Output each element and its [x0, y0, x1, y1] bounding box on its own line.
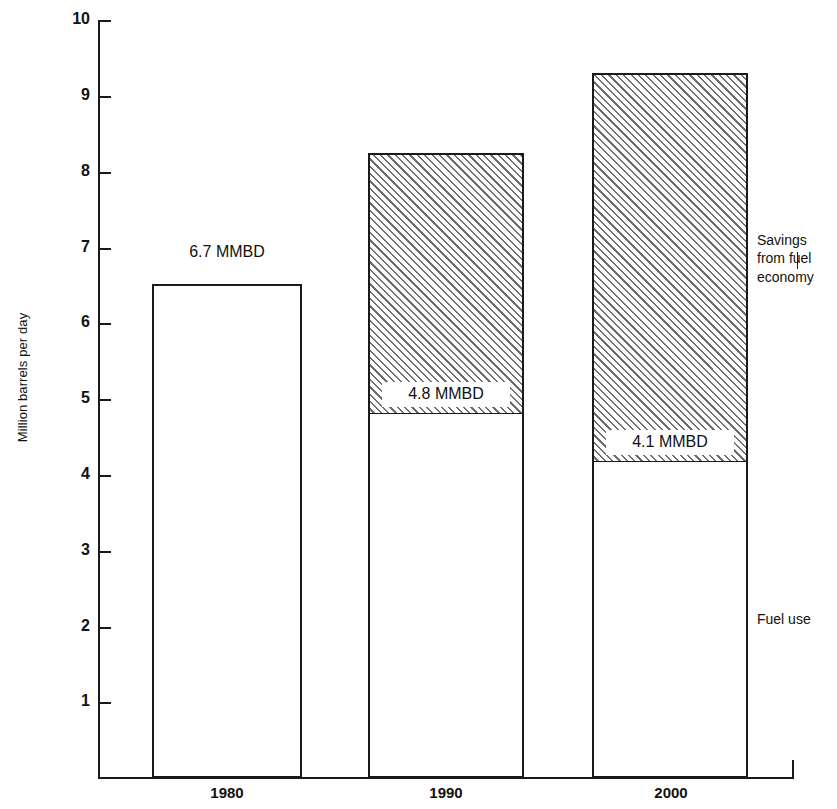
bar-2000-savings [592, 73, 748, 463]
y-tick-label-3: 3 [46, 542, 90, 558]
y-tick-mark-8 [98, 172, 111, 174]
savings-note-leader-tick [797, 252, 798, 269]
y-tick-mark-9 [98, 96, 111, 98]
y-tick-mark-10 [98, 20, 111, 22]
y-tick-label-10: 10 [46, 11, 90, 27]
y-tick-mark-2 [98, 627, 111, 629]
y-tick-label-1-wrap: 1 [40, 693, 90, 709]
y-tick-label-9: 9 [46, 87, 90, 103]
y-tick-label-3-wrap: 3 [40, 542, 90, 558]
x-tick-label-1990: 1990 [386, 784, 506, 801]
y-tick-label-7: 7 [46, 239, 90, 255]
x-axis-end-cap [792, 760, 794, 778]
y-tick-label-6-wrap: 6 [40, 314, 90, 330]
chart-figure: Million barrels per day 10 9 8 7 6 5 4 3… [0, 0, 837, 809]
bar-1990-fuel-use [368, 414, 524, 778]
y-tick-mark-1 [98, 702, 111, 704]
y-tick-label-2-wrap: 2 [40, 618, 90, 634]
y-tick-label-7-wrap: 7 [40, 239, 90, 255]
y-tick-mark-4 [98, 475, 111, 477]
y-tick-mark-5 [98, 399, 111, 401]
y-tick-mark-3 [98, 551, 111, 553]
y-tick-label-2: 2 [46, 618, 90, 634]
bar-1990-value-label: 4.8 MMBD [382, 382, 510, 407]
legend-fuel-use-label: Fuel use [757, 610, 837, 628]
y-tick-label-8-wrap: 8 [40, 163, 90, 179]
bar-2000-fuel-use [592, 462, 748, 778]
y-tick-label-1: 1 [46, 693, 90, 709]
bar-1980-value-label: 6.7 MMBD [152, 243, 302, 261]
y-tick-label-4: 4 [46, 466, 90, 482]
bar-1990-savings [368, 153, 524, 415]
x-tick-label-2000: 2000 [611, 784, 731, 801]
bar-1980-fuel-use [152, 284, 302, 778]
y-tick-label-5: 5 [46, 390, 90, 406]
y-tick-label-6: 6 [46, 314, 90, 330]
bar-2000-value-label: 4.1 MMBD [606, 430, 734, 455]
x-tick-label-1980: 1980 [167, 784, 287, 801]
y-tick-mark-6 [98, 323, 111, 325]
y-tick-label-10-wrap: 10 [40, 11, 90, 27]
y-tick-label-8: 8 [46, 163, 90, 179]
y-tick-label-9-wrap: 9 [40, 87, 90, 103]
y-tick-label-5-wrap: 5 [40, 390, 90, 406]
y-axis-title: Million barrels per day [15, 298, 30, 458]
y-tick-mark-7 [98, 248, 111, 250]
y-tick-label-4-wrap: 4 [40, 466, 90, 482]
